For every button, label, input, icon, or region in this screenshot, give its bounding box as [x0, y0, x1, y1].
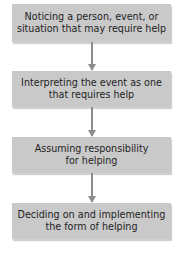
step-text-line: the form of helping: [18, 221, 166, 233]
step-text-line: Noticing a person, event, or: [17, 11, 166, 23]
step-box-assuming-responsibility: Assuming responsibility for helping: [12, 137, 171, 173]
step-box-noticing: Noticing a person, event, or situation t…: [12, 4, 171, 42]
down-arrow-icon: [91, 107, 93, 136]
step-text-line: Assuming responsibility: [35, 143, 149, 155]
step-box-interpreting: Interpreting the event as one that requi…: [12, 71, 171, 107]
down-arrow-icon: [91, 42, 93, 70]
step-text-line: Deciding on and implementing: [18, 209, 166, 221]
step-text: Noticing a person, event, or situation t…: [17, 11, 166, 35]
step-text-line: that requires help: [21, 89, 162, 101]
step-text-line: for helping: [35, 155, 149, 167]
step-text-line: situation that may require help: [17, 23, 166, 35]
down-arrow-icon: [91, 173, 93, 202]
step-box-deciding-implementing: Deciding on and implementing the form of…: [12, 203, 171, 239]
step-text: Assuming responsibility for helping: [35, 143, 149, 167]
step-text: Deciding on and implementing the form of…: [18, 209, 166, 233]
step-text-line: Interpreting the event as one: [21, 77, 162, 89]
step-text: Interpreting the event as one that requi…: [21, 77, 162, 101]
